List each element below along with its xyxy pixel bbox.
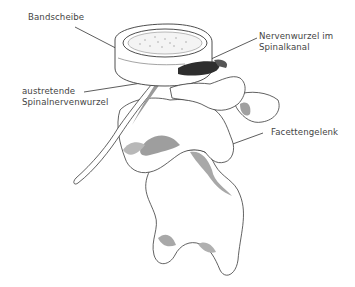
label-nerve-root-canal-line1: Nervenwurzel im xyxy=(259,31,333,42)
spine-diagram: Bandscheibe Nervenwurzel im Spinalkanal … xyxy=(0,0,355,287)
label-disc: Bandscheibe xyxy=(28,12,84,23)
label-nerve-root-canal: Nervenwurzel im Spinalkanal xyxy=(259,31,333,53)
intervertebral-disc xyxy=(115,24,212,86)
label-exiting-nerve: austretende Spinalnervenwurzel xyxy=(22,86,108,108)
lower-vertebra xyxy=(146,150,244,276)
label-facet-joint: Facettengelenk xyxy=(271,127,338,138)
label-nerve-root-canal-line2: Spinalkanal xyxy=(259,42,333,53)
label-exiting-nerve-line1: austretende xyxy=(22,86,108,97)
label-exiting-nerve-line2: Spinalnervenwurzel xyxy=(22,97,108,108)
